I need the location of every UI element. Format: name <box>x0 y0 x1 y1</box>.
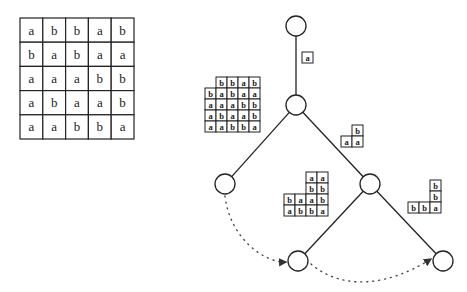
cell-letter: a <box>29 71 35 86</box>
label-letter: b <box>230 89 235 99</box>
cell-letter: a <box>97 47 103 62</box>
label-cell: a <box>430 202 441 213</box>
tree-edge <box>377 191 436 253</box>
label-letter: b <box>219 111 224 121</box>
cell-letter: a <box>29 23 35 38</box>
grid-cell: a <box>88 42 111 66</box>
cell-letter: b <box>74 119 81 134</box>
cell-letter: b <box>28 47 35 62</box>
label-cell: a <box>302 52 313 63</box>
label-cell: b <box>306 183 317 194</box>
grid-cell: a <box>43 66 66 90</box>
grid-cell: b <box>111 66 134 90</box>
cell-letter: b <box>51 95 58 110</box>
cell-letter: a <box>74 71 80 86</box>
label-cell: b <box>317 183 328 194</box>
label-cell: a <box>306 194 317 205</box>
grid-cell: a <box>111 115 134 139</box>
label-cell: b <box>249 77 260 88</box>
label-letter: b <box>241 122 246 132</box>
label-cell: b <box>306 205 317 216</box>
label-cell: b <box>430 180 441 191</box>
grid-cell: a <box>20 18 43 42</box>
label-cell: b <box>352 125 363 136</box>
label-cell: b <box>249 110 260 121</box>
cell-letter: a <box>51 119 57 134</box>
label-cell: b <box>227 121 238 132</box>
grid-cell: b <box>88 115 111 139</box>
grid-cell: b <box>66 18 89 42</box>
label-cell: a <box>238 77 249 88</box>
grid-cell: b <box>88 66 111 90</box>
label-letter: b <box>219 78 224 88</box>
label-letter: b <box>355 126 360 136</box>
tree-edges <box>232 36 436 254</box>
figure-canvas: abbabbabaaaaabbabaabaabba abbabbabaaaaab… <box>0 0 467 292</box>
label-cell: b <box>216 77 227 88</box>
label-cell: b <box>216 110 227 121</box>
label-letter: b <box>208 89 213 99</box>
cell-letter: a <box>97 23 103 38</box>
cell-letter: a <box>120 47 126 62</box>
grid-cell: b <box>43 18 66 42</box>
grid-cell: a <box>20 91 43 115</box>
cell-letter: b <box>51 23 58 38</box>
grid-cell: b <box>111 18 134 42</box>
cell-letter: a <box>74 95 80 110</box>
label-cell: b <box>317 194 328 205</box>
cell-letter: a <box>51 71 57 86</box>
label-letter: b <box>252 78 257 88</box>
grid-cell: a <box>20 66 43 90</box>
cell-letter: b <box>119 23 126 38</box>
grid-cell: a <box>111 42 134 66</box>
label-cell: a <box>317 205 328 216</box>
label-cell: a <box>205 121 216 132</box>
label-cell: b <box>227 88 238 99</box>
label-cell: a <box>352 136 363 147</box>
tree-node-n2 <box>215 174 235 194</box>
label-letter: b <box>230 78 235 88</box>
cell-letter: a <box>29 119 35 134</box>
grid-cell: a <box>66 66 89 90</box>
label-cell: b <box>238 99 249 110</box>
cell-letter: b <box>74 23 81 38</box>
label-letter: b <box>241 100 246 110</box>
label-cell: b <box>419 202 430 213</box>
label-cell: b <box>205 88 216 99</box>
label-n3-n5: bbbba <box>408 180 441 213</box>
grid-cell: a <box>88 91 111 115</box>
grid-cell: b <box>66 42 89 66</box>
cell-letter: a <box>97 95 103 110</box>
cell-letter: b <box>74 47 81 62</box>
label-cell: b <box>430 191 441 202</box>
cell-letter: a <box>51 47 57 62</box>
tree-node-n3 <box>360 174 380 194</box>
label-cell: b <box>227 77 238 88</box>
label-root-n1: a <box>302 52 313 63</box>
label-letter: b <box>287 195 292 205</box>
grid-cell: a <box>43 115 66 139</box>
label-cell: a <box>227 99 238 110</box>
label-letter: b <box>433 181 438 191</box>
dotted-arrow <box>311 259 431 282</box>
label-cell: a <box>249 121 260 132</box>
grid-cell: b <box>20 42 43 66</box>
label-letter: b <box>433 192 438 202</box>
label-cell: a <box>295 194 306 205</box>
cell-letter: b <box>97 119 104 134</box>
label-letter: b <box>298 206 303 216</box>
label-letter: b <box>320 184 325 194</box>
label-n1-n2: bbabbabaaaaabbabaabaabba <box>205 77 260 132</box>
label-letter: b <box>252 100 257 110</box>
label-cell: b <box>295 205 306 216</box>
tree-node-n4 <box>288 251 308 271</box>
grid-cell: b <box>66 115 89 139</box>
tree-nodes <box>215 16 453 271</box>
cell-letter: b <box>119 71 126 86</box>
label-letter: b <box>309 184 314 194</box>
label-cell: a <box>216 121 227 132</box>
cell-letter: a <box>29 95 35 110</box>
label-cell: b <box>408 202 419 213</box>
label-cell: a <box>317 172 328 183</box>
cell-letter: a <box>120 119 126 134</box>
